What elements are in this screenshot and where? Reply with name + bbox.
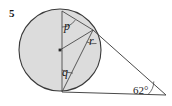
angle-label-apex: 62° — [133, 85, 148, 96]
angle-label-r: r — [89, 35, 94, 47]
question-number: 5 — [9, 8, 15, 19]
circle-centre-dot — [59, 49, 62, 52]
angle-label-q: q — [62, 66, 68, 78]
geometry-figure: 5 p q r 62° — [0, 0, 172, 106]
angle-label-p: p — [64, 20, 70, 32]
segment-tangent-upper-to-apex — [93, 30, 166, 95]
